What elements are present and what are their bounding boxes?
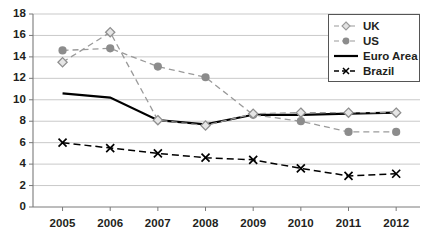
series-line (63, 143, 397, 176)
data-point (344, 128, 352, 136)
y-axis-tick-label: 8 (0, 114, 26, 126)
legend-label-euro-area: Euro Area (359, 50, 418, 62)
legend-key-euro-area-icon (333, 49, 359, 63)
legend-key-uk-icon (333, 19, 359, 33)
y-axis-tick-label: 4 (0, 157, 26, 169)
x-axis-tick-label: 2006 (87, 217, 133, 229)
data-point (201, 121, 210, 130)
data-point (344, 108, 353, 117)
y-axis-tick-label: 10 (0, 93, 26, 105)
data-point (58, 58, 67, 67)
legend-label-uk: UK (359, 20, 380, 32)
data-point (392, 128, 400, 136)
x-axis-tick-label: 2011 (326, 217, 372, 229)
y-axis-tick-label: 14 (0, 50, 26, 62)
y-axis-tick-label: 6 (0, 136, 26, 148)
series-brazil (59, 139, 401, 180)
legend-item-us: US (333, 33, 413, 48)
x-axis-tick-label: 2009 (230, 217, 276, 229)
data-point (201, 73, 209, 81)
legend-key-us-icon (333, 34, 359, 48)
chart-legend: UK US Euro Area Brazil (328, 14, 420, 82)
y-axis-tick-label: 2 (0, 179, 26, 191)
legend-label-us: US (359, 35, 379, 47)
series-line (63, 93, 397, 124)
x-axis-tick-label: 2005 (40, 217, 86, 229)
x-axis-tick-label: 2012 (373, 217, 419, 229)
y-axis-tick-label: 12 (0, 71, 26, 83)
x-axis-tick-label: 2007 (135, 217, 181, 229)
data-point (106, 44, 114, 52)
data-point (392, 108, 401, 117)
legend-item-uk: UK (333, 18, 413, 33)
x-axis-tick-label: 2010 (278, 217, 324, 229)
y-axis-tick-label: 18 (0, 7, 26, 19)
data-point (58, 46, 66, 54)
legend-label-brazil: Brazil (359, 65, 394, 77)
data-point (153, 116, 162, 125)
data-point (154, 62, 162, 70)
legend-item-brazil: Brazil (333, 63, 413, 78)
legend-item-euro-area: Euro Area (333, 48, 413, 63)
series-euro-area (63, 93, 397, 124)
y-axis-tick-label: 16 (0, 28, 26, 40)
legend-key-brazil-icon (333, 64, 359, 78)
chart-container: 024681012141618 200520062007200820092010… (0, 0, 428, 245)
y-axis-tick-label: 0 (0, 200, 26, 212)
x-axis-tick-label: 2008 (183, 217, 229, 229)
data-point (297, 117, 305, 125)
